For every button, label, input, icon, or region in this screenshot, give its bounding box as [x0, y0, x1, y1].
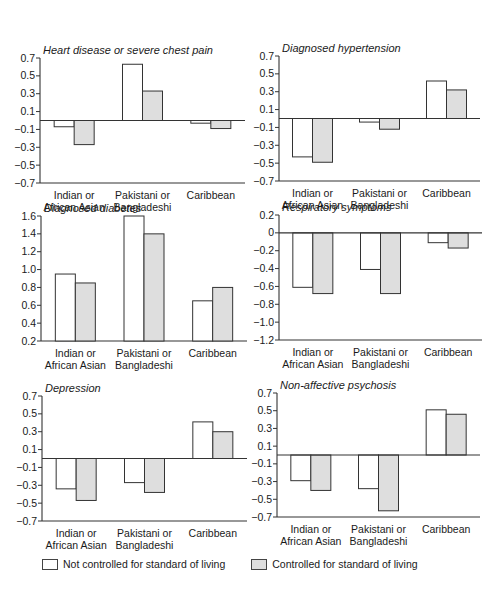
category-label: Pakistani or	[117, 527, 172, 539]
chart-title: Heart disease or severe chest pain	[43, 44, 213, 56]
legend-swatch-gray	[251, 559, 267, 570]
chart-title: Non-affective psychosis	[280, 379, 397, 391]
bar-controlled	[380, 119, 400, 130]
bars	[55, 216, 232, 341]
y-tick-label: 0.3	[257, 422, 272, 434]
bars	[56, 422, 233, 501]
y-tick-label: 0.1	[20, 105, 35, 117]
chart-title: Depression	[45, 382, 101, 394]
bar-controlled	[213, 287, 233, 341]
y-tick-label: 1.6	[21, 210, 36, 222]
y-tick-label: 1.4	[21, 227, 36, 239]
bar-controlled	[211, 121, 231, 129]
y-tick-label: 0.7	[22, 390, 37, 402]
bar-not-controlled	[426, 410, 446, 455]
y-tick-label: 0.2	[259, 209, 274, 221]
y-tick-label: −0.7	[14, 177, 35, 189]
y-tick-label: −0.1	[14, 123, 35, 135]
y-tick-label: −0.5	[251, 493, 272, 505]
category-label: Pakistani or	[117, 347, 172, 359]
bar-controlled	[74, 121, 94, 145]
bar-not-controlled	[428, 233, 448, 243]
y-tick-label: 0.1	[257, 440, 272, 452]
chart-title: Diagnosed diabetes	[44, 202, 142, 214]
y-tick-label: −0.7	[251, 511, 272, 523]
category-label: Caribbean	[424, 346, 473, 358]
bar-controlled	[76, 459, 96, 501]
category-label: Indian or	[290, 523, 331, 535]
y-tick-label: −0.1	[253, 121, 274, 133]
category-label: Pakistani or	[351, 523, 406, 535]
y-tick-label: −0.2	[253, 244, 274, 256]
bar-not-controlled	[193, 301, 213, 341]
category-label: African Asian	[45, 359, 106, 371]
y-tick-label: 0.4	[21, 317, 36, 329]
y-tick-label: −0.3	[251, 475, 272, 487]
bar-not-controlled	[123, 64, 143, 120]
legend-label: Not controlled for standard of living	[63, 558, 225, 570]
y-tick-label: −0.3	[14, 141, 35, 153]
bar-controlled	[448, 233, 468, 248]
bars	[293, 233, 468, 294]
category-label: Pakistani or	[353, 346, 408, 358]
y-tick-label: −0.1	[251, 457, 272, 469]
y-tick-label: −0.5	[253, 157, 274, 169]
y-tick-label: 0.8	[21, 281, 36, 293]
bar-controlled	[75, 283, 95, 341]
bar-controlled	[313, 233, 333, 294]
bar-not-controlled	[293, 233, 313, 287]
category-label: Caribbean	[189, 527, 238, 539]
y-tick-label: 0.3	[22, 425, 37, 437]
bar-controlled	[143, 91, 163, 120]
category-label: Caribbean	[188, 347, 237, 359]
y-tick-label: 0.1	[22, 443, 37, 455]
legend-label: Controlled for standard of living	[272, 558, 417, 570]
bar-not-controlled	[125, 459, 145, 483]
bar-controlled	[313, 119, 333, 163]
chart-title: Diagnosed hypertension	[282, 42, 401, 54]
y-tick-label: 0.2	[21, 335, 36, 347]
y-tick-label: −0.8	[253, 298, 274, 310]
y-tick-label: 0.1	[259, 103, 274, 115]
bar-controlled	[144, 234, 164, 341]
bar-controlled	[311, 455, 331, 490]
bar-controlled	[381, 233, 401, 294]
legend-item-not-controlled: Not controlled for standard of living	[42, 558, 225, 570]
category-label: African Asian	[280, 535, 341, 547]
y-tick-label: −0.7	[253, 175, 274, 187]
category-label: Bangladeshi	[116, 539, 174, 551]
y-tick-label: 0.6	[21, 299, 36, 311]
y-tick-label: −0.6	[253, 280, 274, 292]
bar-not-controlled	[124, 216, 144, 341]
bar-not-controlled	[359, 455, 379, 489]
legend-swatch-white	[42, 559, 58, 570]
bar-not-controlled	[193, 422, 213, 459]
bar-not-controlled	[54, 121, 74, 127]
y-tick-label: 0.3	[20, 87, 35, 99]
y-tick-label: 0.7	[259, 50, 274, 62]
y-tick-label: −1.0	[253, 316, 274, 328]
y-tick-label: 0.5	[259, 67, 274, 79]
y-tick-label: 0.5	[22, 407, 37, 419]
bar-controlled	[447, 90, 467, 119]
y-tick-label: −1.2	[253, 334, 274, 346]
chart-non-affective-psychosis: Non-affective psychosis0.70.50.30.1−0.1−…	[250, 378, 498, 558]
category-label: African Asian	[282, 358, 343, 370]
category-label: Bangladeshi	[352, 358, 410, 370]
y-tick-label: 1.2	[21, 245, 36, 257]
category-label: Bangladeshi	[350, 535, 408, 547]
bar-not-controlled	[55, 274, 75, 341]
y-tick-label: −0.1	[16, 461, 37, 473]
chart-respiratory-symptoms: Respiratory symptoms0.20−0.2−0.4−0.6−0.8…	[250, 198, 498, 378]
bars	[293, 81, 467, 162]
y-tick-label: −0.3	[16, 479, 37, 491]
bar-not-controlled	[291, 455, 311, 481]
legend-item-controlled: Controlled for standard of living	[251, 558, 417, 570]
y-tick-label: −0.5	[16, 497, 37, 509]
y-tick-label: 0.5	[20, 69, 35, 81]
y-tick-label: −0.3	[253, 139, 274, 151]
bar-not-controlled	[293, 119, 313, 157]
legend: Not controlled for standard of living Co…	[42, 555, 482, 573]
chart-heart-disease: Heart disease or severe chest pain0.70.5…	[0, 20, 248, 200]
chart-diagnosed-diabetes: Diagnosed diabetes1.61.41.21.00.80.60.40…	[0, 198, 248, 378]
